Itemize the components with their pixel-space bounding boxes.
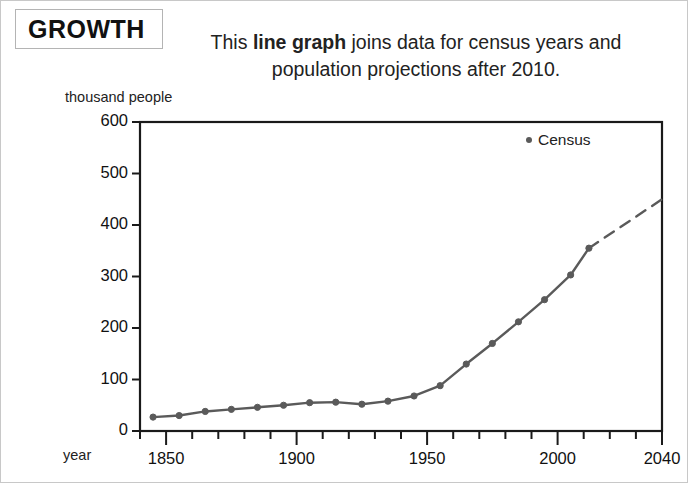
data-point-marker	[280, 402, 286, 408]
x-tick-label: 1850	[136, 449, 196, 468]
projection-line	[589, 199, 662, 248]
y-tick-label: 0	[76, 420, 128, 439]
data-point-marker	[411, 393, 417, 399]
data-point-marker	[515, 319, 521, 325]
data-point-marker	[385, 398, 391, 404]
y-tick-label: 300	[76, 266, 128, 285]
plot-border	[140, 122, 662, 431]
line-chart-svg	[1, 1, 688, 483]
data-point-marker	[307, 400, 313, 406]
data-point-marker	[333, 399, 339, 405]
data-point-marker	[489, 340, 495, 346]
y-tick-label: 400	[76, 214, 128, 233]
data-point-marker	[150, 414, 156, 420]
data-point-marker	[254, 404, 260, 410]
data-point-marker	[176, 412, 182, 418]
x-tick-label: 1900	[267, 449, 327, 468]
poster-frame: GROWTH This line graph joins data for ce…	[0, 0, 688, 483]
data-point-marker	[202, 408, 208, 414]
data-point-marker	[228, 406, 234, 412]
y-tick-label: 200	[76, 317, 128, 336]
data-point-marker	[568, 272, 574, 278]
x-tick-label: 1950	[397, 449, 457, 468]
chart-plot-area	[1, 1, 688, 483]
data-point-marker	[359, 401, 365, 407]
y-tick-label: 600	[76, 111, 128, 130]
y-tick-label: 100	[76, 369, 128, 388]
x-tick-label: 2000	[528, 449, 588, 468]
data-point-marker	[463, 361, 469, 367]
x-tick-label: 2040	[632, 449, 688, 468]
census-line	[153, 248, 589, 417]
data-point-marker	[437, 383, 443, 389]
y-tick-label: 500	[76, 163, 128, 182]
data-point-marker	[541, 297, 547, 303]
